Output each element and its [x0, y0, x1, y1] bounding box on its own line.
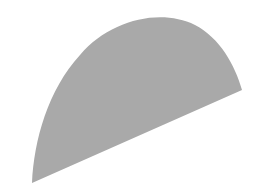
gray-segment-shape	[32, 17, 242, 183]
diagram-canvas	[0, 0, 259, 184]
